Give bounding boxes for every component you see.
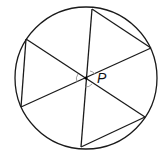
hexagon-in-circle-figure [0, 0, 166, 156]
center-point-dot [84, 76, 87, 79]
angle-arc-1 [90, 71, 95, 74]
center-label: P [97, 70, 106, 86]
diagram-canvas: P [0, 0, 166, 156]
side-1 [92, 9, 151, 48]
side-3 [81, 117, 145, 147]
